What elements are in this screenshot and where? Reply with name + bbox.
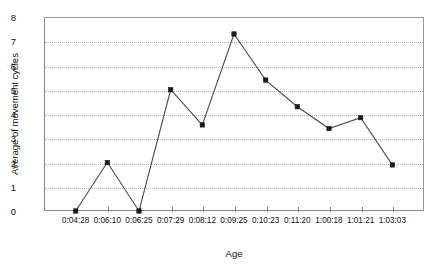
y-axis-tick-label: 3 [0,133,16,144]
x-axis-tick-mark [235,207,236,212]
y-axis-tick-label: 4 [0,109,16,120]
y-axis-tick-label: 8 [0,12,16,23]
gridline [45,164,423,165]
gridline [45,42,423,43]
x-axis-title: Age [44,248,424,259]
y-axis-tick-label: 0 [0,206,16,217]
x-axis-tick-mark [362,207,363,212]
x-axis-tick-mark [140,207,141,212]
x-axis-tick-mark [330,207,331,212]
y-axis-tick-label: 1 [0,181,16,192]
chart-container: Average of movement cycles 012345678 0:0… [0,0,441,274]
x-axis-tick-mark [203,207,204,212]
x-axis-tick-mark [393,207,394,212]
x-axis-tick-mark [172,207,173,212]
x-axis-tick-mark [298,207,299,212]
gridline [45,67,423,68]
y-axis-tick-label: 2 [0,157,16,168]
y-axis-tick-label: 5 [0,84,16,95]
x-axis-tick-mark [267,207,268,212]
y-axis-tick-label: 7 [0,36,16,47]
gridline [45,115,423,116]
plot-area [44,17,424,211]
gridline [45,91,423,92]
y-axis-tick-label: 6 [0,60,16,71]
gridline [45,188,423,189]
x-axis-tick-mark [108,207,109,212]
gridline [45,139,423,140]
x-axis-tick-label: 1:03:03 [369,216,415,225]
x-axis-tick-mark [77,207,78,212]
